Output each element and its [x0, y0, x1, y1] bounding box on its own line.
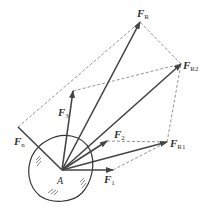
- label-FR2: FR2: [182, 59, 199, 73]
- label-FR1: FR1: [169, 137, 186, 151]
- origin-label: A: [56, 175, 64, 186]
- force-vectors: [18, 22, 181, 170]
- label-F3: F3: [57, 106, 69, 120]
- force-diagram: A F1 F2 F3 Fn FR1 FR2 FR: [0, 0, 211, 216]
- label-F1: F1: [103, 173, 115, 187]
- label-FR: FR: [136, 7, 149, 21]
- vector-FR: [62, 22, 140, 170]
- construction-lines: [18, 22, 181, 170]
- label-F2: F2: [113, 128, 125, 142]
- label-Fn: Fn: [13, 135, 25, 149]
